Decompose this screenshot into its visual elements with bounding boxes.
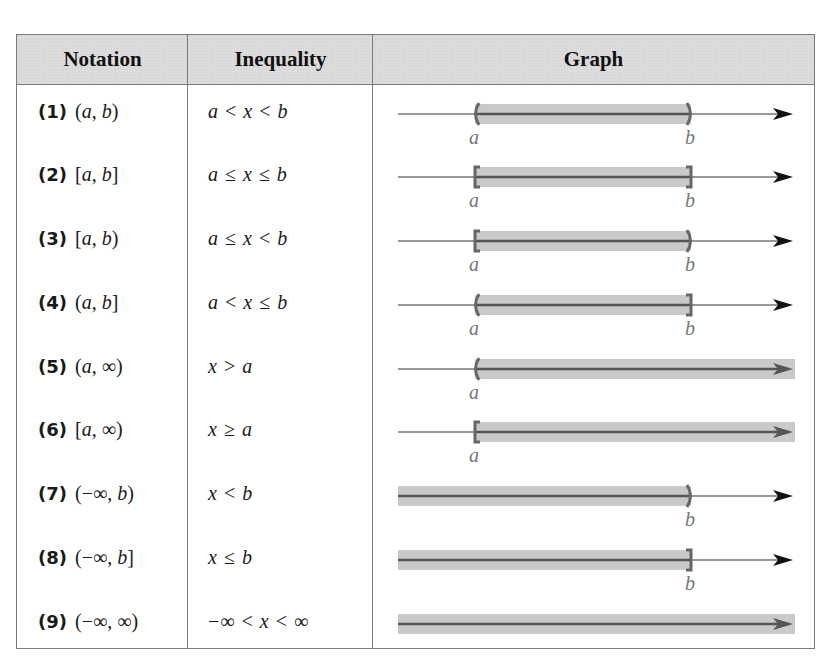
endpoint-label-b: b — [685, 508, 695, 528]
endpoint-label-a: a — [469, 444, 479, 464]
number-line-graph: ab — [17, 209, 814, 273]
interval-notation-table: Notation Inequality Graph (1)(a, b)a < x… — [16, 34, 815, 649]
endpoint-label-b: b — [685, 126, 695, 146]
endpoint-label-a: a — [469, 253, 479, 273]
endpoint-label-a: a — [469, 189, 479, 209]
header-inequality: Inequality — [188, 35, 373, 84]
number-line-graph: b — [17, 464, 814, 528]
table-header: Notation Inequality Graph — [17, 35, 814, 85]
endpoint-label-b: b — [685, 253, 695, 273]
number-line-graph: ab — [17, 145, 814, 209]
endpoint-label-a: a — [469, 381, 479, 401]
number-line-graph — [17, 592, 814, 656]
endpoint-label-a: a — [469, 126, 479, 146]
endpoint-label-a: a — [469, 317, 479, 337]
number-line-graph: a — [17, 400, 814, 464]
number-line-graph: ab — [17, 273, 814, 337]
number-line-graph: a — [17, 337, 814, 401]
number-line-graph: b — [17, 528, 814, 592]
endpoint-label-b: b — [685, 189, 695, 209]
header-notation: Notation — [17, 35, 188, 84]
header-graph: Graph — [373, 35, 814, 84]
number-line-graph: ab — [17, 82, 814, 146]
endpoint-label-b: b — [685, 317, 695, 337]
endpoint-label-b: b — [685, 572, 695, 592]
